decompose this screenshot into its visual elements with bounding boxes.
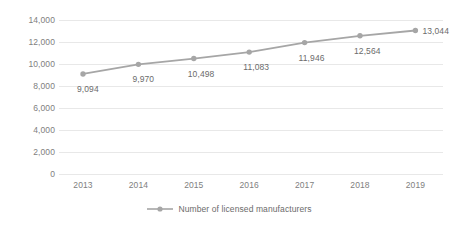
data-point-marker (302, 40, 307, 45)
data-point-label: 10,498 (188, 69, 215, 79)
data-point-marker (80, 71, 85, 76)
data-point-label: 13,044 (422, 26, 449, 36)
line-chart: 02,0004,0006,0008,00010,00012,00014,000 … (0, 0, 459, 229)
data-point-label: 9,094 (77, 84, 99, 94)
chart-legend: Number of licensed manufacturers (0, 204, 459, 214)
data-point-marker (357, 33, 362, 38)
data-point-label: 12,564 (354, 46, 381, 56)
data-point-label: 11,083 (243, 62, 269, 72)
data-point-marker (247, 49, 252, 54)
data-point-marker (136, 62, 141, 67)
series-layer (0, 0, 459, 229)
data-point-marker (191, 56, 196, 61)
data-point-label: 9,970 (132, 74, 154, 84)
data-point-marker (413, 28, 418, 33)
data-point-label: 11,946 (299, 53, 325, 63)
legend-label: Number of licensed manufacturers (178, 204, 311, 214)
legend-marker-icon (147, 204, 173, 214)
